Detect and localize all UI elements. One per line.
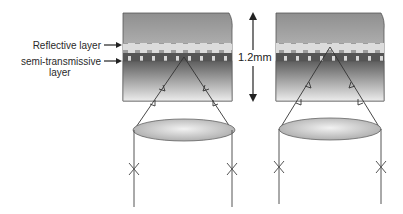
left-disc-panel xyxy=(123,13,232,130)
right-semi-transmissive-layer xyxy=(276,53,384,61)
optical-disc-diagram: Reflective layer semi-transmissive layer… xyxy=(0,0,403,214)
left-semi-transmissive-layer xyxy=(123,53,232,61)
thickness-label: 1.2mm xyxy=(238,52,272,63)
left-reflective-layer xyxy=(123,43,232,53)
semi-transmissive-layer-label-line2: layer xyxy=(49,67,71,78)
semi-transmissive-layer-label: semi-transmissive xyxy=(21,56,101,67)
right-objective-lens xyxy=(279,118,381,140)
right-disc-panel xyxy=(276,13,384,130)
right-lower-substrate xyxy=(276,61,384,101)
left-objective-lens xyxy=(133,119,235,141)
right-reflective-layer xyxy=(276,43,384,53)
label-arrows xyxy=(104,42,122,64)
reflective-layer-label: Reflective layer xyxy=(33,40,101,51)
